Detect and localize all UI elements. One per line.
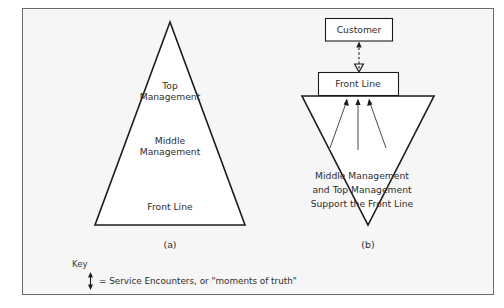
key-description: = Service Encounters, or "moments of tru… [99, 276, 297, 286]
service-encounter-arrowhead-up [356, 42, 361, 48]
customer-box-label: Customer [337, 24, 382, 35]
management-pyramid-shape [95, 22, 245, 225]
diagram-canvas: Top Management Middle Management Front L… [0, 0, 504, 308]
pyramid-front-line-label: Front Line [147, 201, 193, 212]
pyramid-middle-management-label-line2: Management [140, 146, 201, 157]
panel-a-group: Top Management Middle Management Front L… [95, 22, 245, 250]
panel-b-caption: (b) [361, 239, 374, 250]
pyramid-top-management-label-line1: Top [161, 80, 178, 91]
key-group: Key = Service Encounters, or "moments of… [72, 259, 297, 291]
pyramid-top-management-label-line2: Management [140, 91, 201, 102]
support-text-line3: Support the Front Line [311, 198, 414, 209]
key-double-arrow-icon [88, 272, 93, 290]
front-line-box-label: Front Line [335, 78, 381, 89]
key-title: Key [72, 259, 88, 269]
panel-a-caption: (a) [163, 239, 176, 250]
support-text-line1: Middle Management [315, 170, 409, 181]
panel-b-group: Customer Front Line Middle Management an… [302, 19, 434, 250]
pyramid-middle-management-label-line1: Middle [155, 135, 186, 146]
support-text-line2: and Top Management [312, 184, 412, 195]
figure-root: Top Management Middle Management Front L… [0, 0, 504, 308]
